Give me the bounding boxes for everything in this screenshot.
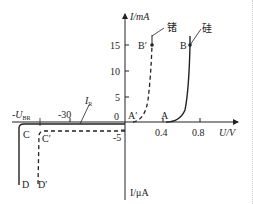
y-tick-10: 10: [110, 66, 120, 77]
page-edge: [250, 0, 253, 204]
point-C-prime: C′: [42, 133, 51, 144]
x-tick-neg30: -30: [58, 109, 71, 120]
point-C: C: [23, 129, 30, 140]
point-D: D: [22, 179, 29, 190]
breakdown-voltage-label: -UBR: [12, 109, 31, 121]
y-tick-5: 5: [115, 92, 120, 103]
point-B-prime: B′: [138, 40, 147, 51]
point-A: A: [161, 110, 169, 121]
x-tick-0.8: 0.8: [192, 127, 205, 138]
point-B: B: [180, 40, 187, 51]
y-tick-0: 0: [114, 111, 119, 122]
y-axis-label-top: I/mA: [129, 11, 150, 22]
silicon-label: 硅: [202, 22, 212, 34]
y-axis-label-bottom: I/μA: [130, 187, 149, 198]
reverse-current-label: IR: [84, 95, 92, 107]
x-axis-label: U/V: [219, 127, 237, 138]
y-tick-neg5: -5: [113, 132, 121, 143]
silicon-reverse-curve: [19, 124, 125, 185]
x-tick-0.4: 0.4: [155, 127, 168, 138]
y-tick-15: 15: [110, 40, 120, 51]
diode-iv-diagram: I/mA I/μA U/V 15 10 5 0 -5 0.4 0.8 -30 -…: [0, 0, 253, 204]
germanium-reverse-curve: [38, 131, 125, 185]
germanium-label: 锗: [167, 21, 177, 33]
point-D-prime: D′: [38, 179, 47, 190]
point-A-prime: A′: [128, 110, 137, 121]
